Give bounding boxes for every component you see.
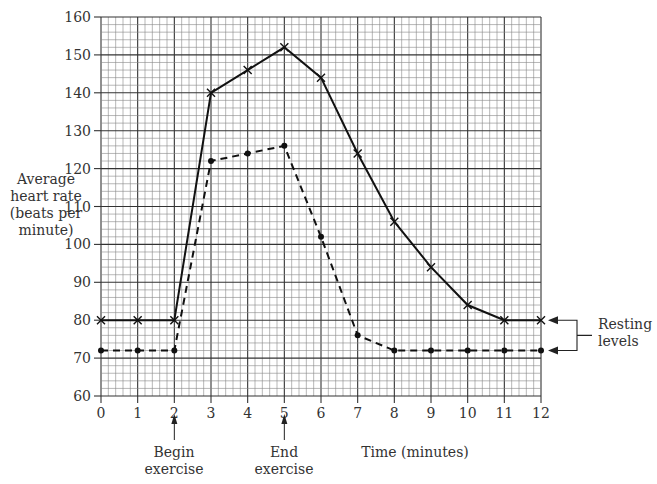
y-axis-label-line: minute) [0,222,92,239]
x-tick-label: 12 [532,405,550,421]
y-axis-label-line: heart rate [0,188,92,205]
end-label-line: End [234,444,334,461]
y-axis-label-line: Average [0,171,92,188]
dot-marker [171,348,177,354]
x-tick-label: 0 [97,405,106,421]
y-axis-label: Average heart rate (beats per minute) [0,171,92,239]
dot-marker [98,348,104,354]
heart-rate-chart: 6070809010011012013014015016001234567891… [0,0,657,484]
y-tick-label: 60 [73,388,91,404]
y-tick-label: 140 [64,85,91,101]
end-label-line: exercise [234,461,334,478]
dot-marker [465,348,471,354]
resting-label-line: Resting [598,316,657,333]
x-tick-label: 7 [353,405,362,421]
y-tick-label: 70 [73,350,91,366]
x-tick-label: 6 [317,405,326,421]
end-exercise-label: End exercise [234,444,334,478]
y-tick-label: 160 [64,9,91,25]
resting-label-line: levels [598,333,657,350]
x-tick-label: 1 [133,405,142,421]
x-tick-label: 8 [390,405,399,421]
x-tick-label: 3 [207,405,216,421]
dot-marker [208,158,214,164]
dot-marker [355,332,361,338]
begin-exercise-label: Begin exercise [124,444,224,478]
resting-bracket [556,320,592,350]
dot-marker [318,234,324,240]
dot-marker [538,348,544,354]
y-tick-label: 80 [73,312,91,328]
begin-label-line: Begin [124,444,224,461]
x-tick-label: 4 [243,405,252,421]
arrow-left-icon [548,347,558,355]
begin-label-line: exercise [124,461,224,478]
y-tick-label: 130 [64,123,91,139]
dot-marker [428,348,434,354]
x-tick-label: 9 [427,405,436,421]
y-tick-label: 150 [64,47,91,63]
x-tick-label: 11 [495,405,513,421]
resting-levels-label: Resting levels [598,316,657,350]
dot-marker [135,348,141,354]
x-tick-label: 10 [459,405,477,421]
arrow-left-icon [548,316,558,324]
x-axis-label: Time (minutes) [345,444,485,461]
dot-marker [391,348,397,354]
y-tick-label: 90 [73,274,91,290]
dot-marker [501,348,507,354]
dot-marker [245,150,251,156]
y-axis-label-line: (beats per [0,205,92,222]
dot-marker [281,143,287,149]
